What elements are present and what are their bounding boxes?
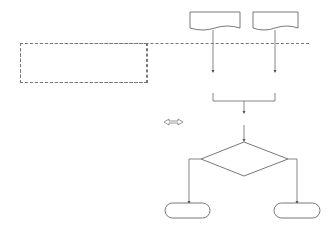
connector-lines bbox=[0, 0, 334, 233]
